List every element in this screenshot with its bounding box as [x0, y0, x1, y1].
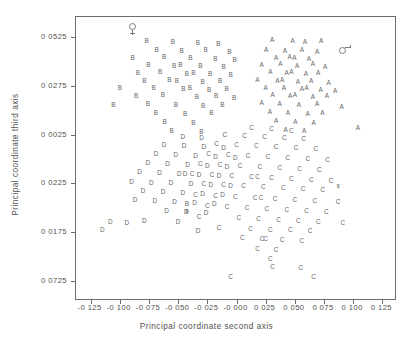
data-point-c: C: [262, 134, 267, 140]
y-tick-mark: [71, 86, 76, 87]
data-point-d: D: [137, 169, 142, 175]
data-point-a: A: [268, 109, 272, 115]
data-point-c: C: [273, 196, 278, 202]
data-point-c: C: [312, 198, 317, 204]
data-point-c: C: [301, 136, 306, 142]
data-point-d: D: [202, 144, 207, 150]
data-point-c: C: [249, 124, 254, 130]
data-point-c: C: [325, 157, 330, 163]
data-point-d: D: [108, 218, 113, 224]
marker-ring: [339, 47, 346, 54]
data-point-c: C: [294, 145, 299, 151]
data-point-b: B: [162, 54, 166, 60]
data-point-d: D: [149, 179, 154, 185]
data-point-a: A: [286, 110, 290, 116]
data-point-a: A: [283, 48, 287, 54]
data-point-d: D: [200, 191, 205, 197]
data-point-c: C: [214, 141, 219, 147]
data-point-b: B: [232, 95, 236, 101]
data-point-a: A: [283, 126, 287, 132]
data-point-b: B: [151, 85, 155, 91]
data-point-c: C: [241, 183, 246, 189]
data-point-d: D: [141, 188, 146, 194]
y-tick-label: 0 0225: [41, 178, 67, 187]
y-tick-mark: [71, 135, 76, 136]
data-point-b: B: [161, 92, 165, 98]
data-point-c: C: [274, 247, 279, 253]
data-point-c: C: [321, 187, 326, 193]
data-point-c: C: [314, 146, 319, 152]
data-point-c: C: [269, 174, 274, 180]
bold-marker-lower-left: ♀: [184, 206, 191, 215]
data-point-a: A: [289, 69, 293, 75]
data-point-d: D: [196, 228, 201, 234]
data-point-b: B: [198, 63, 202, 69]
data-point-b: B: [201, 78, 205, 84]
data-point-a: A: [293, 92, 297, 98]
data-point-c: C: [269, 125, 274, 131]
data-point-a: A: [268, 69, 272, 75]
data-point-c: C: [202, 181, 207, 187]
data-point-a: A: [303, 39, 307, 45]
data-point-b: B: [191, 120, 195, 126]
data-point-a: A: [259, 100, 263, 106]
data-point-a: A: [339, 104, 343, 110]
data-point-b: B: [175, 77, 179, 83]
data-point-d: D: [212, 201, 217, 207]
data-point-b: B: [209, 110, 213, 116]
data-point-c: C: [254, 143, 259, 149]
data-point-c: C: [238, 163, 243, 169]
data-point-d: D: [152, 198, 157, 204]
data-point-d: D: [199, 135, 204, 141]
data-point-c: C: [277, 165, 282, 171]
y-tick-label: 0 0525: [41, 32, 67, 41]
data-point-c: C: [217, 224, 222, 230]
data-point-b: B: [213, 56, 217, 62]
data-point-a: A: [300, 47, 304, 53]
data-point-c: C: [305, 156, 310, 162]
data-point-c: C: [213, 193, 218, 199]
data-point-b: B: [146, 101, 150, 107]
marker-stem: [345, 47, 351, 48]
data-point-c: C: [300, 238, 305, 244]
data-point-b: B: [142, 77, 146, 83]
data-point-d: D: [133, 197, 138, 203]
data-point-d: D: [145, 160, 150, 166]
data-point-b: B: [154, 110, 158, 116]
data-point-c: C: [340, 219, 345, 225]
data-point-a: A: [315, 101, 319, 107]
data-point-b: B: [195, 94, 199, 100]
data-point-b: B: [185, 71, 189, 77]
data-point-a: A: [270, 36, 274, 42]
data-point-b: B: [174, 102, 178, 108]
data-point-a: A: [259, 62, 263, 68]
data-point-c: C: [226, 152, 231, 158]
data-point-a: A: [275, 77, 279, 83]
data-point-c: C: [288, 227, 293, 233]
data-point-c: C: [268, 226, 273, 232]
data-point-c: C: [242, 133, 247, 139]
data-point-c: C: [218, 162, 223, 168]
plot-frame: AAAAAAAAAAAAAAAAAAAAAAAAAAAAAAAAAAAAAAAA…: [75, 16, 396, 300]
data-point-c: C: [282, 135, 287, 141]
data-point-d: D: [221, 145, 226, 151]
data-point-d: D: [183, 170, 188, 176]
data-point-a: A: [293, 119, 297, 125]
data-point-d: D: [189, 181, 194, 187]
data-point-d: D: [129, 178, 134, 184]
data-point-a: A: [315, 49, 319, 55]
data-point-c: C: [197, 214, 202, 220]
data-point-d: D: [193, 153, 198, 159]
data-point-c: C: [301, 186, 306, 192]
data-point-a: A: [311, 61, 315, 67]
data-point-a: A: [278, 61, 282, 67]
data-point-c: C: [296, 217, 301, 223]
data-point-c: C: [246, 153, 251, 159]
data-point-a: A: [285, 70, 289, 76]
data-point-b: B: [163, 119, 167, 125]
data-point-a: A: [264, 47, 268, 53]
data-point-b: B: [136, 70, 140, 76]
x-tick-label: 0 125: [361, 303, 401, 312]
data-point-b: B: [224, 86, 228, 92]
data-point-d: D: [182, 143, 187, 149]
